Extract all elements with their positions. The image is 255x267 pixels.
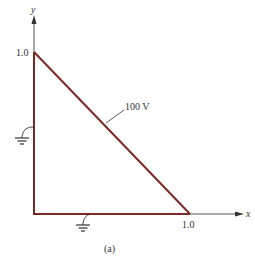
- left-ground-icon: [15, 127, 34, 144]
- x-axis-label: x: [245, 208, 251, 219]
- y-axis-arrowhead-icon: [32, 15, 37, 24]
- voltage-label: 100 V: [125, 101, 150, 112]
- y-axis-label: y: [30, 4, 36, 15]
- bottom-ground-icon: [76, 214, 90, 231]
- triangle-diagram: y x 1.0 1.0 100 V (a): [0, 0, 255, 267]
- hypotenuse-edge: [34, 52, 190, 214]
- figure-caption: (a): [104, 243, 115, 255]
- x-axis-arrowhead-icon: [235, 212, 244, 217]
- voltage-leader-line: [106, 110, 124, 123]
- x-tick-label: 1.0: [182, 219, 195, 230]
- y-tick-label: 1.0: [16, 47, 29, 58]
